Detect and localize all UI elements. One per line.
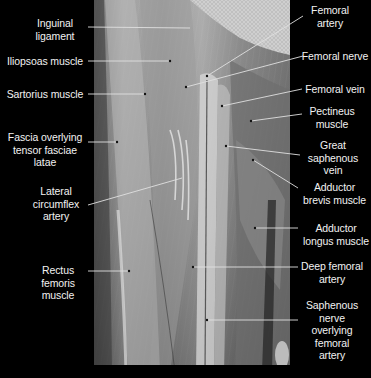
anatomy-figure: Inguinal ligament Iliopsoas muscle Sarto… bbox=[0, 0, 371, 378]
label-adductor-brevis-muscle: Adductor brevis muscle bbox=[298, 181, 371, 206]
label-lateral-circumflex-artery: Lateral circumflex artery bbox=[28, 185, 84, 223]
label-fascia-tensor-fasciae-latae: Fascia overlying tensor fasciae latae bbox=[4, 131, 86, 169]
label-great-saphenous-vein: Great saphenous vein bbox=[302, 139, 364, 177]
label-femoral-nerve: Femoral nerve bbox=[300, 50, 370, 63]
label-pectineus-muscle: Pectineus muscle bbox=[302, 105, 362, 130]
label-femoral-vein: Femoral vein bbox=[301, 83, 369, 96]
label-sartorius-muscle: Sartorius muscle bbox=[2, 88, 88, 101]
label-deep-femoral-artery: Deep femoral artery bbox=[300, 260, 364, 285]
label-inguinal-ligament: Inguinal ligament bbox=[22, 17, 88, 42]
label-saphenous-nerve: Saphenous nerve overlying femoral artery bbox=[300, 299, 364, 362]
label-iliopsoas-muscle: Iliopsoas muscle bbox=[2, 55, 88, 68]
photo-region bbox=[94, 0, 290, 378]
label-adductor-longus-muscle: Adductor longus muscle bbox=[301, 222, 371, 247]
label-femoral-artery: Femoral artery bbox=[300, 4, 360, 29]
label-rectus-femoris-muscle: Rectus femoris muscle bbox=[32, 264, 84, 302]
